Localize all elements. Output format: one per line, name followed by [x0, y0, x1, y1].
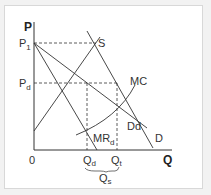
mc-label: MC: [130, 75, 147, 87]
s-curve: [34, 37, 100, 131]
x-axis-label: Q: [163, 153, 172, 167]
qs-label: Qs: [99, 172, 112, 186]
mrd-curve: [34, 43, 97, 150]
dd-label: Dd: [127, 120, 141, 132]
origin-label: 0: [29, 154, 35, 166]
qd-label: Qd: [83, 154, 96, 168]
y-axis-label: P: [24, 20, 32, 34]
pd-label: Pd: [19, 77, 31, 92]
p1-label: P1: [19, 37, 31, 52]
d-label: D: [155, 132, 163, 144]
qt-label: Qt: [111, 154, 123, 168]
mrd-label: MRd: [93, 132, 115, 147]
d-curve: [87, 31, 153, 148]
price-discrimination-diagram: P Q 0 P1 Pd Qd Qt Qs S MC Dd D MRd: [0, 0, 211, 195]
s-label: S: [98, 37, 105, 49]
